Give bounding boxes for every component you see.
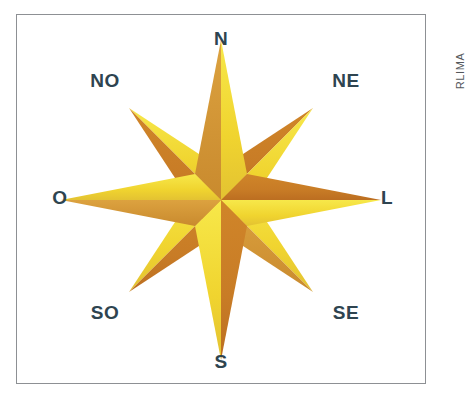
compass-label-no: NO (90, 71, 120, 90)
compass-rose-drawing: N NE L SE S SO O NO (16, 14, 426, 384)
compass-label-n: N (214, 29, 228, 48)
compass-label-ne: NE (332, 71, 359, 90)
compass-rose-svg (16, 14, 426, 384)
point-n (195, 40, 247, 200)
compass-label-so: SO (91, 303, 119, 322)
compass-label-se: SE (333, 303, 359, 322)
point-s (195, 200, 247, 360)
compass-label-l: L (381, 188, 393, 207)
point-o (61, 174, 221, 226)
credit-text: RLIMA (454, 53, 466, 90)
compass-label-s: S (214, 352, 227, 371)
point-l (221, 174, 381, 226)
compass-label-o: O (52, 188, 67, 207)
